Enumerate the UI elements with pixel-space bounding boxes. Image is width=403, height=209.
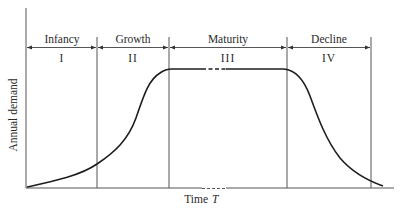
stage-numeral-4: IV bbox=[322, 52, 336, 64]
demand-curve-decline bbox=[226, 69, 383, 186]
product-life-cycle-diagram: Infancy Growth Maturity Decline I II III… bbox=[0, 0, 403, 209]
demand-curve-rise bbox=[27, 69, 202, 187]
stage-label-infancy: Infancy bbox=[44, 33, 79, 46]
stage-numeral-2: II bbox=[128, 52, 138, 64]
y-axis-label: Annual demand bbox=[7, 78, 19, 151]
stage-label-decline: Decline bbox=[311, 33, 347, 45]
stage-numeral-3: III bbox=[221, 52, 236, 64]
stage-numeral-1: I bbox=[60, 52, 65, 64]
stage-label-growth: Growth bbox=[115, 33, 150, 45]
x-axis-symbol: T bbox=[212, 193, 220, 205]
x-axis-label: Time bbox=[184, 193, 208, 205]
stage-label-maturity: Maturity bbox=[208, 33, 248, 46]
